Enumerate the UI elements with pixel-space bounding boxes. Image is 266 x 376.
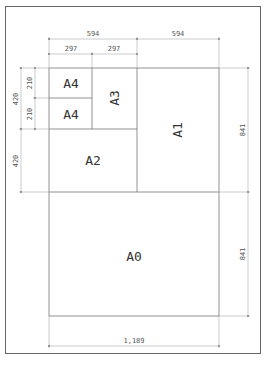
dim-right-lower: 841 [239,248,247,261]
label-a1: A1 [170,122,185,138]
label-a4-top: A4 [63,76,79,91]
label-a3: A3 [107,90,122,106]
dim-left-upper: 420 [12,93,20,106]
label-a2: A2 [85,153,101,168]
dim-a4-width: 297 [65,45,78,53]
dim-a3-width: 297 [108,45,121,53]
dim-right-upper: 841 [239,124,247,137]
dim-top-overall: 594 [87,30,100,38]
paper-size-diagram: A4 A4 A3 A1 A2 A0 594 594 297 297 420 21… [0,0,266,376]
dim-a4-top-height: 210 [26,77,34,90]
dim-top-right: 594 [172,30,185,38]
label-a0: A0 [126,249,142,264]
dim-left-lower: 420 [12,155,20,168]
dim-bottom-overall: 1,189 [123,337,144,345]
label-a4-bottom: A4 [63,107,79,122]
dim-a4-bottom-height: 210 [26,108,34,121]
